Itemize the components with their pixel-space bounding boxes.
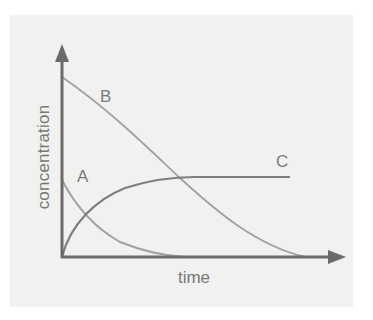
curve-a <box>62 180 185 257</box>
curve-c-label: C <box>276 152 288 172</box>
y-axis-arrow-icon <box>55 44 69 62</box>
curve-c <box>62 177 290 257</box>
x-axis-arrow-icon <box>328 250 346 264</box>
curve-b-label: B <box>100 87 111 107</box>
y-axis-label: concentration <box>34 105 54 210</box>
x-axis-label: time <box>178 268 210 288</box>
curve-b <box>62 77 305 257</box>
curve-a-label: A <box>77 167 88 187</box>
